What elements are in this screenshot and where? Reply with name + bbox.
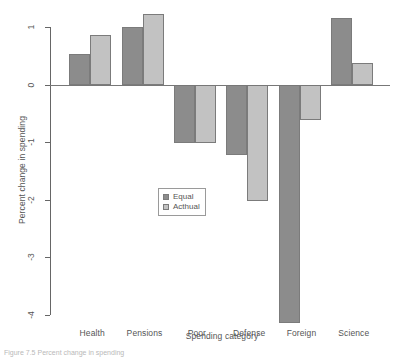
- y-axis-tick-label: -2: [26, 187, 36, 213]
- y-axis-tick: [45, 27, 50, 28]
- y-axis-tick-label: -1: [26, 129, 36, 155]
- bar-chart-figure: Percent change in spending 10-1-2-3-4 He…: [0, 0, 398, 359]
- legend-item-actual: Acthual: [163, 202, 200, 212]
- y-axis-tick-label: -3: [26, 244, 36, 270]
- bar-health-equal: [69, 54, 90, 85]
- y-axis-tick: [45, 315, 50, 316]
- legend-swatch-actual: [163, 204, 169, 210]
- legend-swatch-equal: [163, 194, 169, 200]
- legend-label-actual: Acthual: [173, 202, 200, 212]
- bar-poor-equal: [174, 85, 195, 144]
- bar-science-equal: [331, 18, 352, 84]
- y-axis-tick: [45, 142, 50, 143]
- bar-defense-acthual: [247, 85, 268, 201]
- y-axis-tick-label: 0: [26, 72, 36, 98]
- y-axis-tick-label: 1: [26, 14, 36, 40]
- bar-poor-acthual: [195, 85, 216, 144]
- bar-pensions-acthual: [143, 14, 164, 84]
- legend-item-equal: Equal: [163, 192, 200, 202]
- bar-pensions-equal: [122, 27, 143, 85]
- y-axis-tick: [45, 257, 50, 258]
- figure-caption: Figure 7.5 Percent change in spending: [4, 349, 204, 359]
- plot-area: 10-1-2-3-4 HealthPensionsPoorDefenseFore…: [50, 12, 390, 312]
- bar-defense-equal: [226, 85, 247, 155]
- bar-foreign-equal: [279, 85, 300, 323]
- y-axis-title: Percent change in spending: [17, 70, 27, 270]
- bar-science-acthual: [352, 63, 373, 84]
- y-axis-tick-label: -4: [26, 302, 36, 328]
- zero-baseline: [50, 85, 390, 86]
- legend-label-equal: Equal: [173, 192, 193, 202]
- x-axis-title: Spending category: [48, 331, 396, 341]
- chart-legend: Equal Acthual: [158, 188, 206, 216]
- y-axis-tick: [45, 200, 50, 201]
- bar-foreign-acthual: [300, 85, 321, 121]
- y-axis-line: [50, 27, 51, 315]
- bar-health-acthual: [90, 35, 111, 85]
